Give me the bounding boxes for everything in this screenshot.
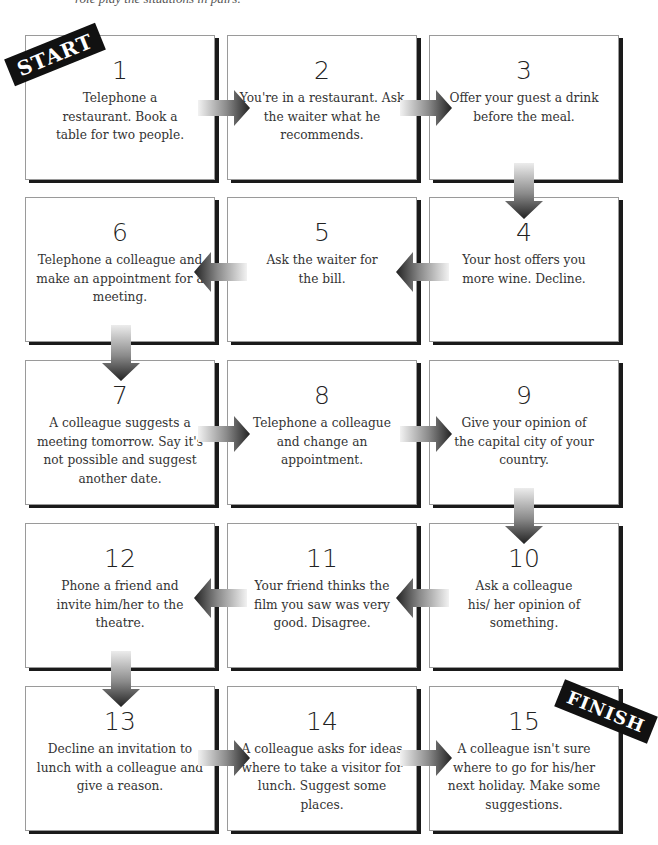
card-number: 8	[228, 381, 416, 411]
card-number: 11	[228, 544, 416, 574]
arrow-down-icon	[102, 651, 140, 707]
card-number: 10	[430, 544, 618, 574]
arrow-right-icon	[198, 416, 252, 454]
card-number: 14	[228, 707, 416, 737]
card-number: 12	[26, 544, 214, 574]
card-text: A colleague suggests a meeting tomorrow.…	[32, 414, 208, 488]
card-text: Ask the waiter for the bill.	[256, 251, 388, 288]
card-3: 3 Offer your guest a drink before the me…	[429, 35, 619, 180]
arrow-right-icon	[198, 90, 252, 128]
card-12: 12 Phone a friend and invite him/her to …	[25, 523, 215, 668]
card-text: A colleague isn't sure where to go for h…	[444, 740, 604, 814]
arrow-left-icon	[395, 578, 449, 618]
arrow-down-icon	[505, 488, 543, 544]
card-text: Telephone a restaurant. Book a table for…	[48, 89, 192, 145]
arrow-right-icon	[400, 740, 454, 778]
card-number: 4	[430, 218, 618, 248]
arrow-down-icon	[505, 163, 543, 219]
card-text: Offer your guest a drink before the meal…	[440, 89, 608, 126]
arrow-down-icon	[102, 325, 140, 381]
card-text: Ask a colleague his/ her opinion of some…	[464, 577, 584, 633]
card-text: Decline an invitation to lunch with a co…	[34, 740, 206, 796]
arrow-left-icon	[193, 252, 247, 292]
card-number: 2	[228, 56, 416, 86]
arrow-right-icon	[400, 90, 454, 128]
card-11: 11 Your friend thinks the film you saw w…	[227, 523, 417, 668]
card-number: 7	[26, 381, 214, 411]
card-9: 9 Give your opinion of the capital city …	[429, 360, 619, 505]
instruction-text: role play the situations in pairs.	[75, 0, 241, 7]
card-7: 7 A colleague suggests a meeting tomorro…	[25, 360, 215, 505]
card-text: Give your opinion of the capital city of…	[450, 414, 598, 470]
card-6: 6 Telephone a colleague and make an appo…	[25, 197, 215, 342]
card-10: 10 Ask a colleague his/ her opinion of s…	[429, 523, 619, 668]
arrow-left-icon	[193, 578, 247, 618]
card-text: Telephone a colleague and make an appoin…	[36, 251, 204, 307]
card-text: Phone a friend and invite him/her to the…	[56, 577, 184, 633]
card-text: You're in a restaurant. Ask the waiter w…	[234, 89, 410, 145]
arrow-left-icon	[395, 252, 449, 292]
card-number: 6	[26, 218, 214, 248]
arrow-right-icon	[400, 416, 454, 454]
card-text: Your host offers you more wine. Decline.	[454, 251, 594, 288]
card-13: 13 Decline an invitation to lunch with a…	[25, 686, 215, 831]
card-2: 2 You're in a restaurant. Ask the waiter…	[227, 35, 417, 180]
card-number: 3	[430, 56, 618, 86]
card-number: 13	[26, 707, 214, 737]
card-8: 8 Telephone a colleague and change an ap…	[227, 360, 417, 505]
arrow-right-icon	[198, 740, 252, 778]
card-number: 9	[430, 381, 618, 411]
card-5: 5 Ask the waiter for the bill.	[227, 197, 417, 342]
card-text: Telephone a colleague and change an appo…	[248, 414, 396, 470]
card-text: A colleague asks for ideas where to take…	[240, 740, 404, 814]
card-number: 5	[228, 218, 416, 248]
card-text: Your friend thinks the film you saw was …	[250, 577, 394, 633]
card-14: 14 A colleague asks for ideas where to t…	[227, 686, 417, 831]
